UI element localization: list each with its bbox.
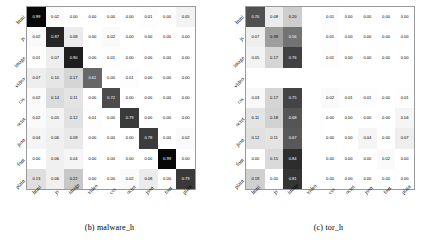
heatmap-cell-value: 0.08	[144, 177, 152, 181]
heatmap-cell	[302, 47, 321, 67]
heatmap-cell-value: 0.17	[70, 76, 78, 80]
heatmap-grid-malware-h: 0.990.020.000.000.000.000.010.000.050.02…	[27, 7, 195, 189]
heatmap-cell: 0.00	[102, 128, 121, 148]
heatmap-cell-value: 0.00	[182, 35, 190, 39]
heatmap-cell: 0.00	[358, 7, 377, 27]
heatmap-cell: 0.78	[139, 128, 158, 148]
heatmap-cell: 0.02	[377, 149, 396, 169]
heatmap-cell: 0.07	[246, 27, 265, 47]
heatmap-cell-value: 0.01	[326, 15, 334, 19]
heatmap-cell-value: 0.70	[251, 15, 259, 19]
heatmap-cell: 0.02	[27, 88, 46, 108]
heatmap-cell: 0.00	[176, 27, 195, 47]
heatmap-cell-value: 0.08	[70, 35, 78, 39]
heatmap-cell-value: 0.00	[326, 136, 334, 140]
heatmap-cell-value: 0.00	[382, 136, 390, 140]
heatmap-cell: 0.00	[176, 68, 195, 88]
heatmap-cell-value: 0.11	[252, 116, 259, 120]
heatmap-cell: 0.00	[176, 108, 195, 128]
heatmap-cell-value: 0.00	[126, 56, 134, 60]
y-axis-tick-label: css	[236, 96, 245, 105]
heatmap-cell: 0.87	[46, 27, 65, 47]
heatmap-cell: 0.00	[158, 108, 177, 128]
panel-tor-h: htmljsimagevideocssoctetjsonfontplain 0.…	[219, 0, 438, 246]
heatmap-cell-value: 0.00	[401, 157, 409, 161]
heatmap-cell-value: 0.00	[382, 116, 390, 120]
heatmap-cell: 0.02	[27, 108, 46, 128]
y-axis-tick-labels-malware-h: htmljsimagevideocssoctetjsonfontplain	[0, 6, 26, 190]
heatmap-cell-value: 0.00	[363, 157, 371, 161]
heatmap-cell: 0.00	[176, 88, 195, 108]
heatmap-cell-value: 0.00	[182, 116, 190, 120]
heatmap-cell-value: 0.01	[363, 96, 371, 100]
heatmap-cell: 0.00	[158, 128, 177, 148]
heatmap-cell: 0.67	[283, 128, 302, 148]
x-axis-tick-label: js	[53, 188, 60, 195]
heatmap-cell-value: 0.00	[401, 177, 409, 181]
heatmap-cell-value: 0.00	[363, 15, 371, 19]
heatmap-cell: 0.00	[158, 7, 177, 27]
heatmap-cell-value: 0.05	[251, 56, 259, 60]
heatmap-cell: 0.01	[102, 47, 121, 67]
heatmap-cell: 0.12	[246, 128, 265, 148]
heatmap-cell: 0.61	[83, 68, 102, 88]
heatmap-cell: 0.00	[339, 128, 358, 148]
panel-malware-h: htmljsimagevideocssoctetjsonfontplain 0.…	[0, 0, 219, 246]
heatmap-cell: 0.00	[358, 149, 377, 169]
heatmap-cell-value: 0.00	[163, 96, 171, 100]
heatmap-cell: 0.00	[83, 7, 102, 27]
y-axis-tick-label: font	[16, 157, 26, 167]
heatmap-cell-value: 0.02	[326, 96, 334, 100]
y-axis-tick-label: video	[13, 75, 26, 88]
heatmap-cell-value: 0.99	[32, 15, 40, 19]
heatmap-cell: 0.01	[339, 88, 358, 108]
heatmap-cell-value: 0.90	[70, 56, 78, 60]
heatmap-malware-h: 0.990.020.000.000.000.000.010.000.050.02…	[26, 6, 196, 190]
heatmap-cell: 0.17	[265, 47, 284, 67]
heatmap-cell-value: 0.00	[182, 76, 190, 80]
heatmap-cell-value: 0.06	[51, 136, 59, 140]
heatmap-cell: 0.20	[283, 7, 302, 27]
heatmap-cell-value: 0.00	[163, 136, 171, 140]
heatmap-cell: 0.00	[377, 128, 396, 148]
heatmap-cell-value: 0.00	[382, 177, 390, 181]
heatmap-cell-value: 0.00	[345, 177, 353, 181]
heatmap-cell: 0.72	[102, 88, 121, 108]
heatmap-cell-value: 0.02	[51, 15, 59, 19]
heatmap-cell-value: 0.00	[126, 35, 134, 39]
heatmap-cell-value: 0.17	[270, 96, 278, 100]
heatmap-cell-value: 0.02	[107, 35, 115, 39]
heatmap-cell: 0.00	[120, 7, 139, 27]
heatmap-cell: 0.70	[246, 7, 265, 27]
heatmap-cell: 0.00	[120, 149, 139, 169]
heatmap-cell: 0.00	[120, 88, 139, 108]
heatmap-cell: 0.03	[246, 88, 265, 108]
heatmap-cell: 0.00	[377, 108, 396, 128]
heatmap-cell: 0.07	[395, 128, 414, 148]
heatmap-cell: 0.10	[46, 68, 65, 88]
figure-root: htmljsimagevideocssoctetjsonfontplain 0.…	[0, 0, 438, 246]
heatmap-cell: 0.00	[158, 47, 177, 67]
heatmap-cell: 0.07	[27, 68, 46, 88]
heatmap-cell	[302, 149, 321, 169]
heatmap-cell-value: 0.01	[345, 96, 353, 100]
heatmap-cell: 0.00	[158, 68, 177, 88]
heatmap-cell-value: 0.04	[401, 116, 409, 120]
heatmap-cell-value: 0.01	[326, 35, 334, 39]
heatmap-cell-value: 0.00	[163, 35, 171, 39]
heatmap-cell-value: 0.00	[107, 116, 115, 120]
heatmap-cell	[377, 68, 396, 88]
heatmap-cell: 0.00	[339, 7, 358, 27]
heatmap-cell: 0.76	[283, 47, 302, 67]
heatmap-cell: 0.00	[83, 27, 102, 47]
heatmap-cell-value: 0.00	[270, 177, 278, 181]
heatmap-cell: 0.00	[339, 27, 358, 47]
x-axis-tick-label: js	[272, 188, 279, 195]
heatmap-cell-value: 0.79	[126, 116, 134, 120]
heatmap-cell: 0.00	[339, 47, 358, 67]
heatmap-cell-value: 0.00	[182, 157, 190, 161]
heatmap-cell-value: 0.00	[126, 15, 134, 19]
heatmap-cell: 0.01	[321, 7, 340, 27]
heatmap-cell-value: 0.00	[363, 56, 371, 60]
heatmap-cell-value: 0.02	[32, 35, 40, 39]
